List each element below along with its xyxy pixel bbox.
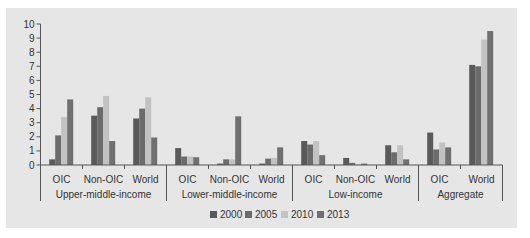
legend-label: 2013 [327, 209, 350, 220]
bar-2010 [187, 157, 193, 165]
legend-item-2013: 2013 [317, 209, 350, 220]
bar-2013 [151, 138, 157, 165]
legend-label: 2005 [255, 209, 278, 220]
category-label: OIC [431, 174, 449, 185]
y-tick-label: 2 [29, 131, 35, 142]
category-label: OIC [53, 174, 71, 185]
bar-2010 [439, 142, 445, 165]
bar-2000 [427, 133, 433, 165]
bar-2010 [103, 96, 109, 165]
bar-2005 [475, 66, 481, 165]
legend-swatch [317, 211, 324, 218]
y-tick-label: 1 [29, 145, 35, 156]
bar-2000 [343, 158, 349, 165]
bar-2005 [223, 159, 229, 165]
category-label: Non-OIC [84, 174, 123, 185]
bar-2010 [229, 159, 235, 165]
bar-2005 [181, 157, 187, 165]
group-label: Lower-middle-income [182, 189, 278, 200]
y-tick-label: 6 [29, 75, 35, 86]
group-label: Low-income [329, 189, 383, 200]
bar-2000 [133, 118, 139, 165]
legend-swatch [210, 211, 217, 218]
bar-2010 [313, 141, 319, 165]
category-label: Non-OIC [336, 174, 375, 185]
bar-2000 [301, 141, 307, 165]
bar-2005 [391, 152, 397, 165]
y-tick-label: 0 [29, 160, 35, 171]
bar-2000 [385, 145, 391, 165]
bar-2013 [277, 147, 283, 165]
bar-2005 [55, 135, 61, 165]
y-axis: 012345678910 [23, 19, 40, 171]
category-label: OIC [305, 174, 323, 185]
bar-2013 [109, 141, 115, 165]
legend-label: 2000 [220, 209, 243, 220]
bar-2000 [49, 159, 55, 165]
category-label: World [133, 174, 159, 185]
bar-2010 [145, 97, 151, 165]
bar-2010 [397, 145, 403, 165]
bar-2010 [271, 158, 277, 165]
legend-item-2005: 2005 [245, 209, 278, 220]
bar-2000 [469, 65, 475, 165]
category-label: World [385, 174, 411, 185]
group-label: Aggregate [437, 189, 484, 200]
bar-2005 [265, 159, 271, 165]
legend-item-2000: 2000 [210, 209, 243, 220]
bar-2005 [433, 149, 439, 165]
bar-2010 [481, 40, 487, 165]
legend-label: 2010 [291, 209, 314, 220]
bar-2013 [193, 157, 199, 165]
bar-2013 [403, 159, 409, 165]
grouped-bar-chart: 012345678910 OICNon-OICWorldUpper-middle… [0, 0, 530, 238]
legend: 2000200520102013 [210, 209, 350, 220]
legend-swatch [245, 211, 252, 218]
bar-2013 [67, 99, 73, 165]
y-tick-label: 8 [29, 47, 35, 58]
bar-2005 [97, 107, 103, 165]
bar-2010 [61, 117, 67, 165]
group-label: Upper-middle-income [56, 189, 152, 200]
category-label: OIC [179, 174, 197, 185]
y-tick-label: 9 [29, 33, 35, 44]
y-tick-label: 3 [29, 117, 35, 128]
y-tick-label: 5 [29, 89, 35, 100]
legend-item-2010: 2010 [281, 209, 314, 220]
category-label: World [469, 174, 495, 185]
category-label: World [259, 174, 285, 185]
bars [49, 31, 493, 165]
bar-2013 [319, 155, 325, 165]
bar-2005 [139, 109, 145, 165]
y-tick-label: 7 [29, 61, 35, 72]
legend-swatch [281, 211, 288, 218]
y-tick-label: 10 [23, 19, 35, 30]
category-label: Non-OIC [210, 174, 249, 185]
x-axis: OICNon-OICWorldUpper-middle-incomeOICNon… [41, 165, 503, 201]
bar-2013 [487, 31, 493, 165]
bar-2013 [235, 116, 241, 165]
bar-2005 [307, 145, 313, 165]
bar-2013 [445, 147, 451, 165]
y-tick-label: 4 [29, 103, 35, 114]
bar-2000 [91, 116, 97, 165]
bar-2000 [175, 148, 181, 165]
